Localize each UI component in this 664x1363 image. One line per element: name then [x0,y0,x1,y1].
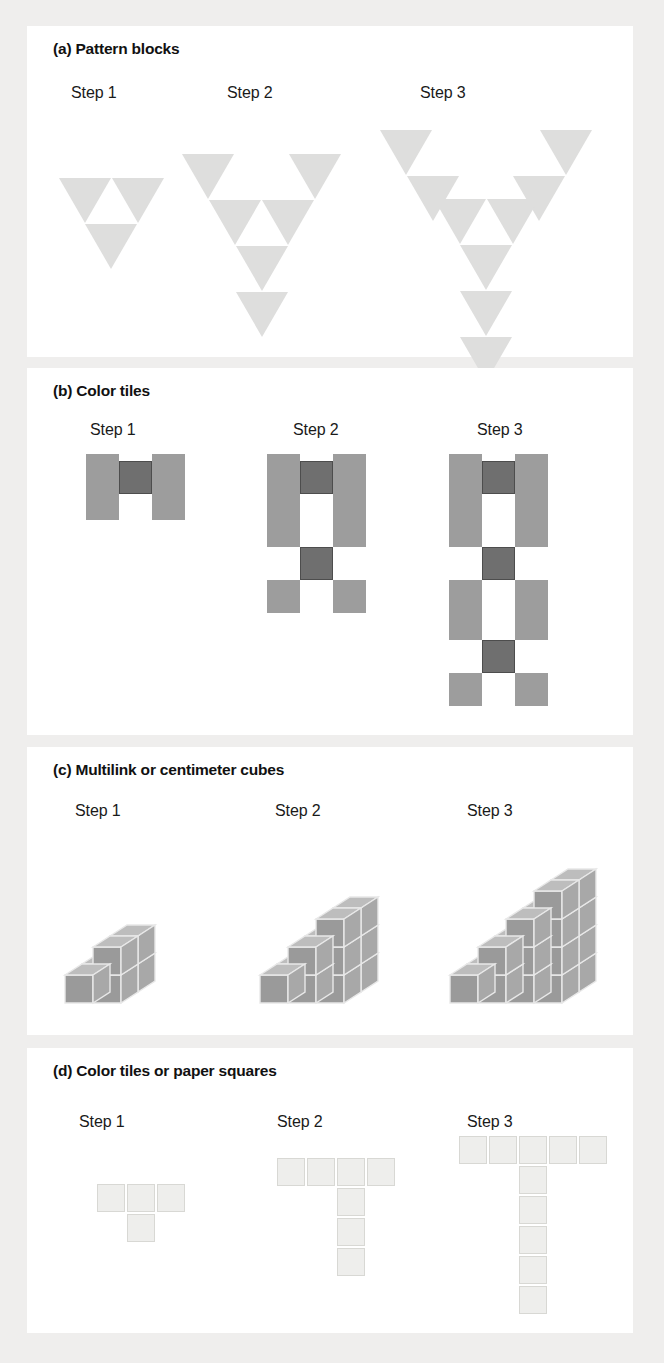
tile-light [86,487,119,520]
tile-light [152,454,185,487]
tile-light [515,487,548,547]
paper-square [277,1158,305,1186]
tile-dark [300,547,333,580]
paper-square [489,1136,517,1164]
panel-c-step-2-label: Step 2 [275,802,321,820]
figure-page: (a) Pattern blocks Step 1 Step 2 Step 3 … [0,0,664,1363]
tile-dark [300,461,333,494]
cube-stack-step-1 [47,889,160,1033]
tile-light [515,580,548,640]
panel-pattern-blocks: (a) Pattern blocks Step 1 Step 2 Step 3 [27,26,633,357]
paper-square [519,1286,547,1314]
paper-square [307,1158,335,1186]
tile-light [449,487,482,547]
cube-stack-step-2 [242,861,383,1033]
paper-square [337,1248,365,1276]
paper-square [519,1196,547,1224]
panel-c-step-1-label: Step 1 [75,802,121,820]
panel-d-title: (d) Color tiles or paper squares [53,1062,277,1080]
panel-color-tiles: (b) Color tiles Step 1 Step 2 Step 3 [27,368,633,735]
paper-square [127,1184,155,1212]
paper-square [519,1226,547,1254]
tile-light [267,580,300,613]
paper-square [459,1136,487,1164]
tile-light [267,454,300,487]
paper-square [579,1136,607,1164]
panel-a-step-3-label: Step 3 [420,84,466,102]
tile-dark [482,547,515,580]
panel-d-step-3-label: Step 3 [467,1113,513,1131]
tile-light [449,454,482,487]
tile-dark [482,640,515,673]
cube-stack-step-3 [432,833,601,1033]
paper-square [519,1136,547,1164]
paper-square [337,1158,365,1186]
panel-d-step-2-label: Step 2 [277,1113,323,1131]
panel-c-title: (c) Multilink or centimeter cubes [53,761,284,779]
paper-square [157,1184,185,1212]
paper-square [337,1218,365,1246]
tile-light [267,487,300,547]
panel-a-title: (a) Pattern blocks [53,40,179,58]
paper-square [127,1214,155,1242]
paper-square [337,1188,365,1216]
panel-paper-squares: (d) Color tiles or paper squares Step 1 … [27,1048,633,1333]
tile-light [515,454,548,487]
tile-dark [119,461,152,494]
paper-square [549,1136,577,1164]
panel-b-step-3-label: Step 3 [477,421,523,439]
panel-b-title: (b) Color tiles [53,382,150,400]
panel-multilink-cubes: (c) Multilink or centimeter cubes Step 1… [27,747,633,1035]
tile-light [152,487,185,520]
tile-light [449,580,482,640]
tile-dark [482,461,515,494]
tile-light [333,454,366,487]
paper-square [97,1184,125,1212]
tile-light [449,673,482,706]
paper-square [367,1158,395,1186]
panel-d-step-1-label: Step 1 [79,1113,125,1131]
panel-c-step-3-label: Step 3 [467,802,513,820]
paper-square [519,1256,547,1284]
tile-light [86,454,119,487]
tile-light [515,673,548,706]
tile-light [333,580,366,613]
panel-a-step-2-label: Step 2 [227,84,273,102]
panel-a-step-1-label: Step 1 [71,84,117,102]
paper-square [519,1166,547,1194]
tile-light [333,487,366,547]
panel-b-step-2-label: Step 2 [293,421,339,439]
panel-b-step-1-label: Step 1 [90,421,136,439]
